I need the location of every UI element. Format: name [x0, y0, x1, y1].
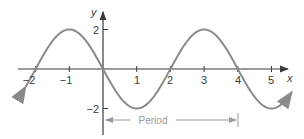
period-annotation: Period	[106, 113, 238, 127]
x-tick-label: 3	[201, 74, 207, 86]
period-label: Period	[139, 115, 168, 126]
x-tick-label: 4	[235, 74, 241, 86]
y-tick-label: −2	[86, 103, 99, 115]
x-tick-label: 2	[167, 74, 173, 86]
sine-chart: −2 −1 1 2 3 4 5 2 −2 x y Period	[0, 0, 304, 139]
x-tick-label: 1	[134, 74, 140, 86]
x-axis-label: x	[286, 72, 293, 84]
y-tick-label: 2	[93, 24, 99, 36]
y-axis-label: y	[90, 6, 98, 18]
x-tick-label: −2	[23, 74, 36, 86]
x-tick-label: −1	[60, 74, 73, 86]
x-tick-label: 5	[268, 74, 274, 86]
